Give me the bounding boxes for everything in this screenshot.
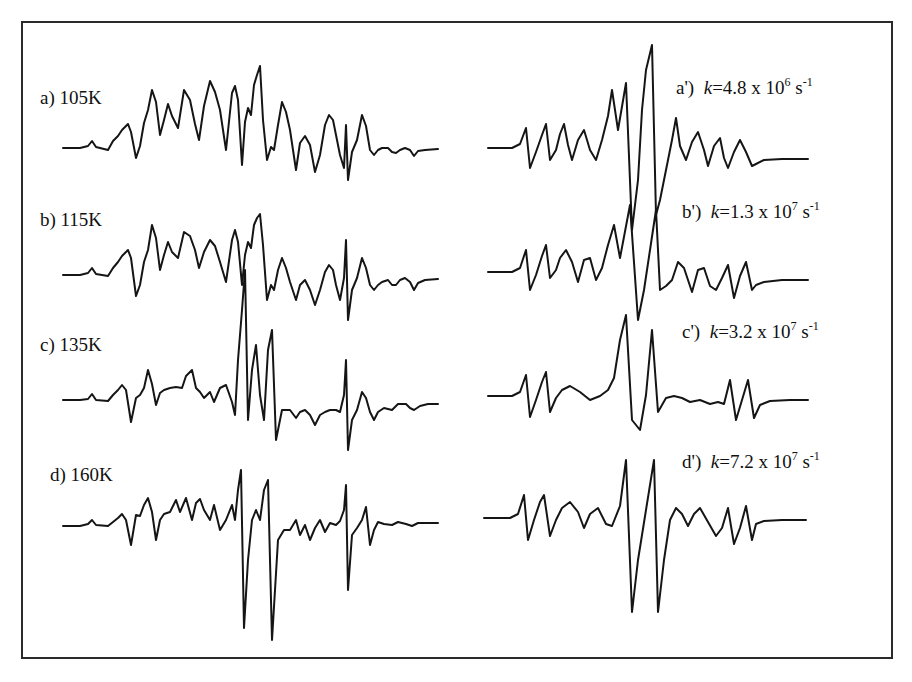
rate-unit: s [791, 77, 803, 98]
k-symbol: k [710, 321, 718, 342]
label-d-160k: d) 160K [50, 465, 113, 484]
spectrum-b-115k [63, 214, 438, 320]
k-symbol: k [711, 201, 719, 222]
label-c-135k: c) 135K [40, 335, 102, 354]
unit-exponent: -1 [803, 75, 813, 89]
rate-exponent: 7 [792, 199, 798, 213]
k-symbol: k [711, 451, 719, 472]
rate-unit: s [798, 451, 810, 472]
label-d-prime-rate: d') k=7.2 x 107 s-1 [682, 452, 820, 471]
unit-exponent: -1 [810, 449, 820, 463]
simulation-b-prime [488, 205, 808, 320]
rate-value: =1.3 x 10 [719, 201, 791, 222]
simulation-d-prime [484, 460, 806, 612]
label-b-prime-rate: b') k=1.3 x 107 s-1 [682, 202, 820, 221]
label-a-prime-rate: a') k=4.8 x 106 s-1 [676, 78, 813, 97]
rate-unit: s [797, 321, 809, 342]
rate-exponent: 7 [792, 449, 798, 463]
label-b-115k: b) 115K [40, 210, 102, 229]
rate-exponent: 6 [785, 75, 791, 89]
rate-value: =4.8 x 10 [712, 77, 784, 98]
label-prefix: c') [682, 321, 700, 342]
rate-value: =3.2 x 10 [718, 321, 790, 342]
spectrum-d-160k [63, 470, 438, 640]
label-a-105k: a) 105K [40, 88, 102, 107]
label-c-prime-rate: c') k=3.2 x 107 s-1 [682, 322, 819, 341]
rate-value: =7.2 x 10 [719, 451, 791, 472]
k-symbol: k [704, 77, 712, 98]
unit-exponent: -1 [809, 319, 819, 333]
unit-exponent: -1 [810, 199, 820, 213]
experimental-spectra [63, 66, 438, 640]
label-prefix: a') [676, 77, 694, 98]
label-prefix: d') [682, 451, 701, 472]
rate-exponent: 7 [791, 319, 797, 333]
label-prefix: b') [682, 201, 701, 222]
rate-unit: s [798, 201, 810, 222]
spectrum-a-105k [63, 66, 438, 180]
spectrum-c-135k [63, 270, 438, 450]
